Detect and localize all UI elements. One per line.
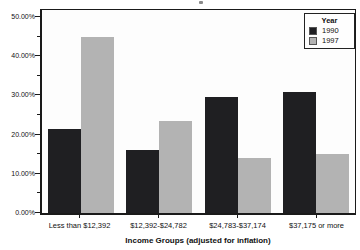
x-tick-4 (316, 215, 317, 218)
bar-1990-group-2 (126, 150, 159, 214)
y-tick-label-0: 0.00% (15, 209, 35, 217)
bar-1997-group-3 (238, 158, 271, 213)
legend: Year 19901997 (304, 13, 355, 49)
x-label-2: $12,392-$24,782 (119, 221, 198, 230)
legend-swatch-1990 (309, 27, 317, 35)
y-tick-label-10: 10.00% (11, 170, 35, 178)
legend-item-1990: 1990 (309, 26, 354, 35)
bar-1997-group-4 (316, 154, 349, 213)
legend-label-1997: 1997 (322, 36, 339, 45)
y-tick-label-20: 20.00% (11, 131, 35, 139)
x-axis-labels: Less than $12,392$12,392-$24,782$24,783-… (40, 221, 356, 230)
x-tick-1 (79, 215, 80, 218)
bar-1990-group-4 (283, 92, 316, 213)
x-tick-2 (158, 215, 159, 218)
bar-group-2 (120, 10, 198, 213)
x-tick-3 (237, 215, 238, 218)
x-label-4: $37,175 or more (277, 221, 356, 230)
x-label-1: Less than $12,392 (40, 221, 119, 230)
cropped-title-artifact (199, 1, 203, 4)
legend-items: 19901997 (305, 26, 354, 45)
bar-1990-group-1 (48, 129, 81, 213)
y-tick-label-50: 50.00% (11, 13, 35, 21)
x-axis-title: Income Groups (adjusted for inflation) (40, 236, 356, 245)
y-tick-label-40: 40.00% (11, 52, 35, 60)
bar-1990-group-3 (205, 97, 238, 213)
legend-title: Year (305, 16, 354, 25)
bar-group-1 (42, 10, 120, 213)
legend-label-1990: 1990 (322, 26, 339, 35)
y-axis: 0.00%10.00%20.00%30.00%40.00%50.00% (0, 9, 40, 213)
bar-1997-group-1 (81, 37, 114, 213)
bar-group-3 (199, 10, 277, 213)
x-axis-ticks (40, 215, 356, 219)
x-label-3: $24,783-$37,174 (198, 221, 277, 230)
legend-item-1997: 1997 (309, 36, 354, 45)
bar-chart: 0.00%10.00%20.00%30.00%40.00%50.00% Less… (0, 0, 360, 250)
y-tick-label-30: 30.00% (11, 91, 35, 99)
legend-swatch-1997 (309, 37, 317, 45)
bar-1997-group-2 (159, 121, 192, 214)
